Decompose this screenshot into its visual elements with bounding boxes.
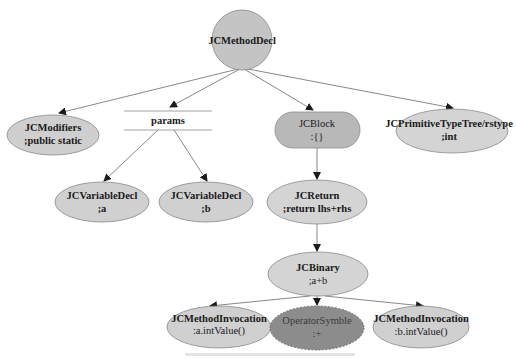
edge-binary-invoke-b	[325, 296, 423, 306]
edge-binary-invoke-a	[210, 296, 310, 306]
node-jcvariabledecl-a: JCVariableDecl ;a	[55, 182, 149, 222]
node-jcreturn: JCReturn ;return lhs+rhs	[267, 180, 367, 224]
node-title: params	[151, 115, 185, 126]
node-operatorsymble: OperatorSymble :+	[270, 306, 364, 350]
node-value: ;return lhs+rhs	[283, 203, 352, 214]
node-jcmethodinvocation-b: JCMethodInvocation :b.intValue()	[373, 306, 469, 348]
node-jcmethoddecl: JCMethodDecl	[208, 10, 276, 70]
ast-diagram: JCMethodDecl JCModifiers ;public static …	[0, 0, 516, 359]
node-title: JCMethodDecl	[208, 35, 276, 46]
node-jcblock: JCBlock :{}	[275, 112, 360, 148]
node-title: JCBinary	[296, 262, 341, 273]
node-value: :a.intValue()	[193, 325, 246, 337]
node-jcmethodinvocation-a: JCMethodInvocation :a.intValue()	[167, 306, 271, 348]
node-jcprimitivetypetree: JCPrimitiveTypeTree/rstype ;int	[385, 109, 513, 153]
node-params: params	[124, 111, 212, 130]
edge-root-params	[170, 69, 240, 107]
node-value: :b.intValue()	[395, 326, 448, 338]
edge-params-var-b	[174, 130, 207, 181]
node-value: ;a	[98, 203, 107, 214]
node-title: JCVariableDecl	[171, 190, 242, 201]
node-jcbinary: JCBinary ;a+b	[268, 252, 368, 296]
node-value: ;a+b	[309, 275, 328, 286]
node-jcmodifiers: JCModifiers ;public static	[7, 115, 99, 155]
node-value: ;int	[441, 131, 457, 142]
node-value: :{}	[311, 131, 324, 142]
node-title: JCBlock	[299, 118, 336, 129]
edge-params-var-a	[104, 130, 158, 181]
node-jcvariabledecl-b: JCVariableDecl ;b	[159, 182, 253, 222]
node-title: JCModifiers	[25, 122, 82, 133]
node-title: JCMethodInvocation	[171, 313, 267, 324]
node-title: JCPrimitiveTypeTree/rstype	[385, 118, 513, 129]
node-title: JCVariableDecl	[67, 190, 138, 201]
node-title: JCReturn	[295, 190, 340, 201]
node-title: JCMethodInvocation	[373, 313, 469, 324]
caption-blur	[185, 353, 355, 356]
node-value: :+	[313, 328, 322, 339]
node-value: ;b	[201, 203, 210, 214]
node-title: OperatorSymble	[282, 315, 352, 326]
node-value: ;public static	[24, 135, 82, 146]
edge-root-rettype	[248, 69, 453, 108]
edge-root-modifiers	[59, 69, 238, 113]
